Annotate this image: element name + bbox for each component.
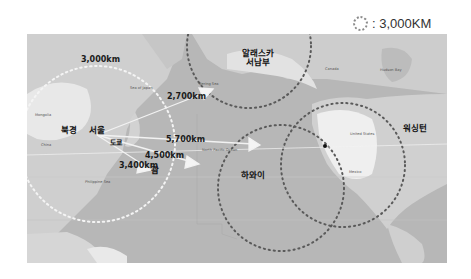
city-beijing: 북경: [61, 126, 77, 135]
city-seoul: 서울: [89, 126, 105, 135]
distance-pacific: 4,500km: [145, 152, 184, 160]
city-alaska: 알래스카 서남부: [242, 49, 274, 67]
label-hudson-bay: Hudson Bay: [380, 68, 402, 72]
city-guam: 괌: [151, 166, 159, 175]
label-bering: Bering Sea: [199, 82, 219, 86]
legend: : 3,000KM: [353, 14, 431, 32]
label-mexico: Mexico: [349, 170, 362, 174]
city-washington: 워싱턴: [403, 124, 427, 133]
map: Mongolia China Sea of Japan Bering Sea N…: [27, 34, 447, 263]
city-tokyo: 도쿄: [110, 140, 122, 147]
city-hawaii: 하와이: [241, 171, 265, 180]
distance-radius: 3,000km: [81, 56, 120, 64]
label-china: China: [41, 143, 51, 147]
label-sea-of-japan: Sea of Japan: [130, 86, 152, 90]
label-canada: Canada: [325, 67, 339, 71]
label-north-pacific: North Pacific Ocean: [202, 148, 237, 152]
label-mongolia: Mongolia: [35, 113, 51, 117]
legend-label: : 3,000KM: [372, 16, 431, 31]
distance-hawaii: 5,700km: [166, 136, 205, 144]
label-philippine-sea: Philippine Sea: [85, 180, 110, 184]
distance-alaska: 2,700km: [167, 93, 206, 101]
label-united-states: United States: [350, 132, 374, 136]
dotted-circle-icon: [353, 16, 368, 31]
